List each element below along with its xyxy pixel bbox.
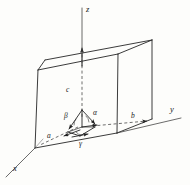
box-edge-top-front xyxy=(38,54,118,70)
axis-x-solid-outside xyxy=(6,148,35,177)
unit-cell-diagram-canvas: z y x c b a xyxy=(0,0,190,185)
box-edge-vertical-front-left xyxy=(35,70,38,148)
angle-label-gamma: γ xyxy=(79,139,83,148)
cell-label-b: b xyxy=(131,111,135,120)
axis-label-z: z xyxy=(85,4,90,14)
axis-label-x: x xyxy=(12,163,17,173)
angle-arc-beta xyxy=(74,119,76,125)
cell-label-c: c xyxy=(66,85,70,94)
axis-label-y: y xyxy=(169,104,174,114)
angle-label-alpha: α xyxy=(93,108,98,117)
unit-cell-figure: z y x c b a xyxy=(0,0,190,185)
axis-y-dashed-inside-cell xyxy=(92,121,147,126)
box-edge-vertical-front-right xyxy=(117,54,118,133)
box-edge-top-back-left xyxy=(45,40,152,60)
box-edge-top-right xyxy=(118,40,152,54)
angle-label-beta: β xyxy=(63,111,68,120)
cell-box-edges xyxy=(35,40,152,148)
axis-x-dashed-inside-cell xyxy=(40,127,78,145)
cell-label-a: a xyxy=(47,131,51,140)
